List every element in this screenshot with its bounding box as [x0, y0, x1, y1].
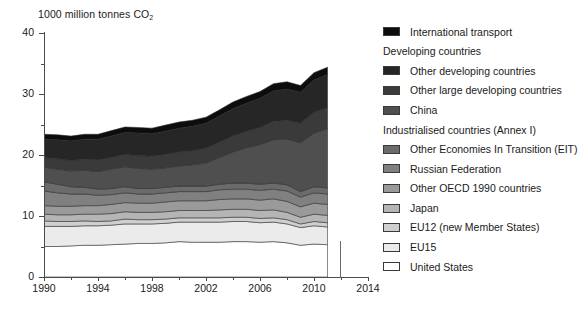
- x-tick-label: 2010: [294, 282, 334, 294]
- y-tick-minor: [41, 247, 44, 248]
- x-tick-major: [98, 277, 99, 281]
- y-tick-label: 0: [12, 270, 34, 282]
- x-tick-label: 1994: [78, 282, 118, 294]
- y-tick-major: [39, 33, 44, 34]
- legend-item[interactable]: EU12 (new Member States): [383, 218, 588, 238]
- chart-panel: 1000 million tonnes CO2 010203040 199019…: [0, 0, 380, 312]
- y-tick-label: 30: [12, 87, 34, 99]
- legend-item-label: United States: [410, 262, 473, 273]
- x-tick-label: 2002: [186, 282, 226, 294]
- legend-swatch: [383, 66, 400, 75]
- legend-item-label: Japan: [410, 203, 439, 214]
- stacked-area-svg: [44, 33, 368, 277]
- legend-swatch: [383, 262, 400, 271]
- y-tick-minor: [41, 186, 44, 187]
- y-tick-label: 40: [12, 26, 34, 38]
- legend-item[interactable]: Japan: [383, 198, 588, 218]
- x-tick-minor: [341, 277, 342, 280]
- legend-swatch: [383, 145, 400, 154]
- legend-swatch: [383, 27, 400, 36]
- x-tick-major: [206, 277, 207, 281]
- x-tick-label: 1998: [132, 282, 172, 294]
- y-tick-label: 10: [12, 209, 34, 221]
- x-tick-label: 2014: [348, 282, 388, 294]
- legend-item-label: International transport: [410, 27, 512, 38]
- y-tick-major: [39, 94, 44, 95]
- x-tick-minor: [71, 277, 72, 280]
- x-tick-minor: [179, 277, 180, 280]
- x-tick-minor: [125, 277, 126, 280]
- legend-item-label: EU12 (new Member States): [410, 222, 540, 233]
- y-axis-title: 1000 million tonnes CO2: [38, 8, 153, 20]
- year-2012-marker-line: [340, 241, 341, 278]
- y-tick-label: 20: [12, 148, 34, 160]
- x-tick-major: [314, 277, 315, 281]
- legend-item[interactable]: Russian Federation: [383, 159, 588, 179]
- legend-swatch: [383, 243, 400, 252]
- legend-item-label: Other large developing countries: [410, 85, 562, 96]
- x-tick-minor: [233, 277, 234, 280]
- legend-group-heading: Developing countries: [383, 42, 588, 62]
- y-tick-major: [39, 216, 44, 217]
- y-tick-minor: [41, 125, 44, 126]
- plot-area: [44, 33, 368, 277]
- x-tick-label: 2006: [240, 282, 280, 294]
- legend-item[interactable]: EU15: [383, 238, 588, 258]
- legend-swatch: [383, 184, 400, 193]
- y-tick-major: [39, 155, 44, 156]
- legend-item-label: EU15: [410, 242, 436, 253]
- legend-swatch: [383, 106, 400, 115]
- x-tick-major: [368, 277, 369, 281]
- legend-item-label: Russian Federation: [410, 164, 501, 175]
- x-tick-major: [152, 277, 153, 281]
- legend-item[interactable]: Other Economies In Transition (EIT): [383, 140, 588, 160]
- y-axis-title-main: 1000 million tonnes CO: [38, 8, 149, 20]
- legend-item[interactable]: Other OECD 1990 countries: [383, 179, 588, 199]
- x-tick-major: [260, 277, 261, 281]
- legend-swatch: [383, 164, 400, 173]
- legend-swatch: [383, 223, 400, 232]
- legend-item[interactable]: China: [383, 100, 588, 120]
- legend-group-heading: Industrialised countries (Annex I): [383, 120, 588, 140]
- legend-item[interactable]: Other developing countries: [383, 61, 588, 81]
- legend-swatch: [383, 86, 400, 95]
- y-tick-minor: [41, 64, 44, 65]
- legend-item-label: China: [410, 105, 437, 116]
- chart-page: 1000 million tonnes CO2 010203040 199019…: [0, 0, 588, 312]
- legend-item-label: Other OECD 1990 countries: [410, 183, 541, 194]
- legend-swatch: [383, 204, 400, 213]
- y-axis-line: [44, 32, 45, 278]
- legend-item-label: Other Economies In Transition (EIT): [410, 144, 577, 155]
- legend-item[interactable]: International transport: [383, 22, 588, 42]
- x-tick-label: 1990: [24, 282, 64, 294]
- legend-item[interactable]: Other large developing countries: [383, 81, 588, 101]
- x-tick-major: [44, 277, 45, 281]
- y-axis-title-subscript: 2: [149, 14, 153, 21]
- x-tick-minor: [287, 277, 288, 280]
- legend-item-label: Other developing countries: [410, 66, 536, 77]
- area-band: [44, 242, 328, 277]
- legend-item[interactable]: United States: [383, 257, 588, 277]
- chart-legend: International transportDeveloping countr…: [383, 22, 588, 277]
